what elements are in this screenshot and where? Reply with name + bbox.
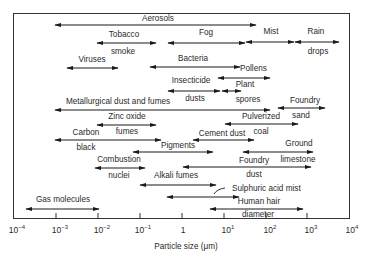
label-rain: Rain <box>308 27 325 36</box>
label-cement-dust: Cement dust <box>199 129 246 138</box>
label-limestone: limestone <box>280 155 315 164</box>
x-axis-label: Particle size (μm) <box>154 242 218 251</box>
label-gas-molecules: Gas molecules <box>36 195 90 204</box>
tick-label: 10−1 <box>135 224 152 235</box>
label-spores: spores <box>236 95 261 104</box>
label-zinc-oxide: Zinc oxide <box>108 112 146 121</box>
label-fumes: fumes <box>116 127 138 136</box>
label-mist: Mist <box>263 27 279 36</box>
label-combustion: Combustion <box>97 155 141 164</box>
label-carbon: Carbon <box>73 128 100 137</box>
label-diameter: diameter <box>242 210 274 219</box>
label-sulphuric-acid-mist: Sulphuric acid mist <box>232 184 301 193</box>
particle-size-diagram: Aerosols Tobacco smoke Fog Mist Rain dro… <box>0 0 369 259</box>
label-drops: drops <box>308 47 328 56</box>
label-pollens: Pollens <box>240 64 267 73</box>
label-smoke: smoke <box>111 47 136 56</box>
label-plant: Plant <box>236 80 255 89</box>
label-bacteria: Bacteria <box>178 54 208 63</box>
label-insecticide: Insecticide <box>172 76 211 85</box>
label-foundry-dust-1: Foundry <box>239 156 270 165</box>
tick-label: 103 <box>305 224 318 235</box>
label-fog: Fog <box>199 28 214 37</box>
tick-label: 10−2 <box>94 224 111 235</box>
label-foundry-sand-1: Foundry <box>290 96 321 105</box>
label-human-hair: Human hair <box>238 197 281 206</box>
label-pigments: Pigments <box>161 141 195 150</box>
tick-label: 101 <box>222 224 235 235</box>
label-sand: sand <box>292 111 310 120</box>
label-metallurgical: Metallurgical dust and fumes <box>66 97 170 106</box>
label-dust: dust <box>246 170 262 179</box>
sulphuric-pointer <box>214 188 225 194</box>
label-black: black <box>76 143 96 152</box>
tick-label: 1 <box>181 225 186 235</box>
tick-label: 104 <box>346 224 359 235</box>
label-ground: Ground <box>285 139 313 148</box>
label-coal: coal <box>253 127 268 136</box>
tick-label: 102 <box>264 224 277 235</box>
label-tobacco: Tobacco <box>109 30 140 39</box>
label-pulverized: Pulverized <box>242 112 281 121</box>
label-dusts: dusts <box>185 94 205 103</box>
label-aerosols: Aerosols <box>142 14 174 23</box>
tick-label: 10−4 <box>9 224 26 235</box>
tick-label: 10−3 <box>52 224 69 235</box>
label-nuclei: nuclei <box>108 171 130 180</box>
label-viruses: Viruses <box>78 55 105 64</box>
label-alkali-fumes: Alkali fumes <box>154 171 198 180</box>
